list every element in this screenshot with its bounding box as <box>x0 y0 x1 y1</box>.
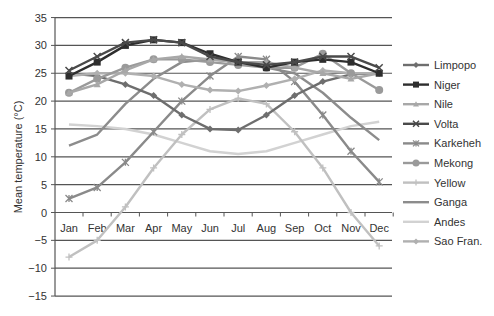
x-tick-label: Aug <box>257 222 277 234</box>
legend-label: Niger <box>434 79 461 91</box>
legend-item: Mekong <box>403 157 473 169</box>
series-yellow <box>66 95 383 261</box>
legend-item: Volta <box>403 118 459 130</box>
x-tick-label: Mar <box>116 222 135 234</box>
y-axis-ticks: 35302520151050−5−10−15 <box>28 12 47 303</box>
line-chart: Mean temperature (°C) 35302520151050−5−1… <box>0 0 494 316</box>
y-tick-label: 35 <box>35 12 47 24</box>
y-tick-label: −15 <box>28 290 47 302</box>
x-tick-label: Jan <box>60 222 78 234</box>
y-tick-label: −5 <box>34 234 47 246</box>
legend-item: Niger <box>403 79 461 91</box>
legend-item: Limpopo <box>403 59 476 71</box>
x-tick-label: May <box>171 222 192 234</box>
data-series <box>65 36 383 260</box>
legend-item: Karkeheh <box>403 137 481 149</box>
legend-label: Andes <box>434 216 466 228</box>
y-tick-label: 0 <box>41 207 47 219</box>
x-tick-label: Jul <box>231 222 245 234</box>
y-axis-label: Mean temperature (°C) <box>12 101 24 214</box>
legend-label: Mekong <box>434 157 473 169</box>
legend-label: Karkeheh <box>434 137 481 149</box>
y-tick-label: 5 <box>41 179 47 191</box>
legend-label: Sao Fran. <box>434 235 482 247</box>
x-tick-label: Jun <box>201 222 219 234</box>
legend-item: Andes <box>403 216 466 228</box>
y-tick-label: −10 <box>28 262 47 274</box>
legend-label: Volta <box>434 118 459 130</box>
legend-label: Ganga <box>434 196 468 208</box>
y-tick-label: 15 <box>35 123 47 135</box>
y-tick-label: 30 <box>35 39 47 51</box>
x-tick-label: Apr <box>145 222 162 234</box>
x-tick-label: Nov <box>341 222 361 234</box>
y-tick-label: 20 <box>35 95 47 107</box>
legend: LimpopoNigerNileVoltaKarkehehMekongYello… <box>403 59 482 247</box>
legend-item: Nile <box>403 98 453 110</box>
legend-label: Nile <box>434 98 453 110</box>
y-tick-label: 10 <box>35 151 47 163</box>
legend-label: Yellow <box>434 177 465 189</box>
legend-item: Ganga <box>403 196 468 208</box>
series-volta <box>66 36 383 74</box>
legend-item: Yellow <box>403 177 465 189</box>
x-tick-label: Sep <box>285 222 305 234</box>
y-tick-label: 25 <box>35 67 47 79</box>
x-tick-label: Dec <box>369 222 389 234</box>
legend-item: Sao Fran. <box>403 235 482 247</box>
legend-label: Limpopo <box>434 59 476 71</box>
x-tick-label: Oct <box>314 222 331 234</box>
x-axis-ticks: JanFebMarAprMayJunJulAugSepOctNovDec <box>60 213 393 234</box>
